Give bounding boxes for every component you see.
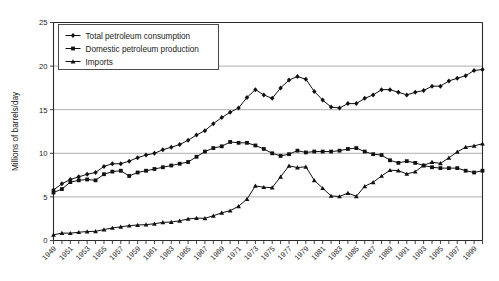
chart-legend: Total petroleum consumptionDomestic petr… bbox=[59, 25, 219, 70]
data-point bbox=[413, 161, 417, 165]
data-point bbox=[405, 159, 409, 163]
x-tick-label-1975: 1975 bbox=[259, 244, 277, 262]
x-tick-label-1963: 1963 bbox=[158, 244, 176, 262]
data-point bbox=[312, 150, 316, 154]
data-point bbox=[480, 141, 485, 145]
data-point bbox=[262, 147, 266, 151]
data-point bbox=[60, 181, 64, 186]
data-point bbox=[421, 88, 425, 93]
data-point bbox=[287, 163, 292, 167]
data-point bbox=[127, 174, 131, 178]
data-point bbox=[464, 169, 468, 173]
x-tick-label-1999: 1999 bbox=[461, 244, 479, 262]
data-point bbox=[455, 150, 460, 154]
x-tick-label-1949: 1949 bbox=[40, 244, 58, 262]
data-point bbox=[329, 150, 333, 154]
data-point bbox=[52, 191, 56, 195]
data-point bbox=[68, 180, 72, 184]
data-point bbox=[270, 151, 274, 155]
x-tick-label-1977: 1977 bbox=[276, 244, 294, 262]
x-tick-label-1991: 1991 bbox=[393, 244, 411, 262]
data-point bbox=[447, 78, 451, 83]
data-point bbox=[228, 208, 233, 212]
data-point bbox=[136, 171, 140, 175]
data-point bbox=[379, 87, 383, 92]
data-point bbox=[85, 172, 89, 177]
data-point bbox=[237, 141, 241, 145]
x-tick-label-1957: 1957 bbox=[107, 244, 125, 262]
data-point bbox=[430, 84, 434, 89]
data-point bbox=[77, 178, 81, 182]
y-tick-label-10: 10 bbox=[39, 149, 47, 158]
data-point bbox=[371, 92, 375, 97]
x-tick-label-1973: 1973 bbox=[242, 244, 260, 262]
data-point bbox=[363, 150, 367, 154]
data-point bbox=[178, 162, 182, 166]
data-point bbox=[119, 169, 123, 173]
data-point bbox=[447, 166, 451, 170]
x-tick-label-1993: 1993 bbox=[410, 244, 428, 262]
data-point bbox=[354, 101, 358, 106]
y-axis-title: Millions of barrels/day bbox=[11, 91, 20, 171]
x-tick-label-1981: 1981 bbox=[309, 244, 327, 262]
data-point bbox=[455, 166, 459, 170]
x-tick-label-1971: 1971 bbox=[225, 244, 243, 262]
data-point bbox=[195, 155, 199, 159]
data-point bbox=[119, 161, 123, 166]
data-point bbox=[102, 172, 106, 176]
data-point bbox=[194, 132, 198, 137]
data-point bbox=[253, 144, 257, 148]
data-point bbox=[94, 178, 98, 182]
data-point bbox=[211, 146, 215, 150]
data-point bbox=[363, 96, 367, 101]
y-tick-label-15: 15 bbox=[39, 106, 47, 115]
data-point bbox=[85, 178, 89, 182]
data-point bbox=[371, 152, 375, 156]
x-tick-label-1967: 1967 bbox=[192, 244, 210, 262]
series-path-0 bbox=[54, 70, 483, 190]
data-point bbox=[380, 153, 384, 157]
y-tick-label-5: 5 bbox=[43, 193, 47, 202]
data-point bbox=[177, 142, 181, 147]
x-tick-label-1979: 1979 bbox=[292, 244, 310, 262]
data-point bbox=[71, 47, 75, 51]
data-point bbox=[169, 145, 173, 150]
data-point bbox=[346, 101, 350, 106]
y-tick-label-0: 0 bbox=[43, 236, 47, 245]
data-point bbox=[472, 171, 476, 175]
data-point bbox=[186, 138, 190, 143]
data-point bbox=[127, 159, 131, 164]
data-point bbox=[279, 154, 283, 158]
x-tick-label-1959: 1959 bbox=[124, 244, 142, 262]
data-point bbox=[430, 165, 434, 169]
legend-label-0: Total petroleum consumption bbox=[86, 32, 191, 41]
data-point bbox=[102, 164, 106, 169]
x-tick-label-1985: 1985 bbox=[343, 244, 361, 262]
series-path-1 bbox=[54, 142, 483, 193]
data-point bbox=[295, 74, 299, 79]
chart-canvas: 0510152025Millions of barrels/day1949195… bbox=[0, 0, 499, 281]
data-point bbox=[481, 169, 485, 173]
data-point bbox=[93, 170, 97, 175]
data-point bbox=[228, 110, 232, 115]
data-point bbox=[312, 178, 317, 182]
data-point bbox=[388, 87, 392, 92]
data-point bbox=[228, 140, 232, 144]
x-tick-label-1955: 1955 bbox=[91, 244, 109, 262]
data-point bbox=[396, 90, 400, 95]
data-point bbox=[152, 151, 156, 156]
data-point bbox=[153, 167, 157, 171]
y-tick-label-25: 25 bbox=[39, 18, 47, 27]
data-point bbox=[287, 152, 291, 156]
data-point bbox=[346, 191, 351, 195]
data-point bbox=[354, 146, 358, 150]
x-tick-label-1969: 1969 bbox=[208, 244, 226, 262]
data-point bbox=[161, 147, 165, 152]
data-point bbox=[338, 149, 342, 153]
data-point bbox=[110, 161, 114, 166]
x-tick-label-1983: 1983 bbox=[326, 244, 344, 262]
data-point bbox=[144, 169, 148, 173]
data-point bbox=[203, 150, 207, 154]
data-point bbox=[388, 158, 392, 162]
x-tick-label-1989: 1989 bbox=[377, 244, 395, 262]
